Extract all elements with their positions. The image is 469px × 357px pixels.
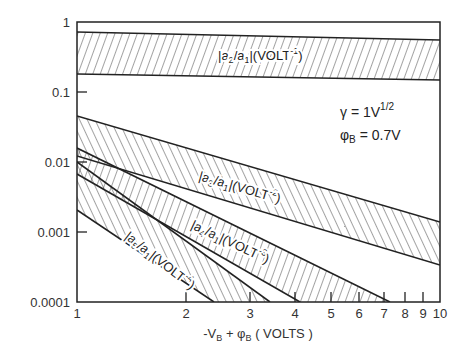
svg-text:4: 4	[291, 306, 298, 321]
svg-text:10: 10	[433, 306, 447, 321]
svg-text:0.01: 0.01	[45, 155, 70, 170]
svg-text:1: 1	[73, 306, 80, 321]
svg-text:9: 9	[419, 306, 426, 321]
svg-text:3: 3	[246, 306, 253, 321]
annotation-phi: φB = 0.7V	[340, 127, 401, 145]
svg-text:5: 5	[327, 306, 334, 321]
svg-text:6: 6	[355, 306, 362, 321]
svg-text:0.0001: 0.0001	[30, 295, 70, 310]
y-tick-labels: 1 0.1 0.01 0.001 0.0001	[30, 15, 70, 310]
svg-text:2: 2	[182, 306, 189, 321]
svg-text:0.001: 0.001	[37, 225, 70, 240]
x-tick-labels: 1 2 3 4 5 6 7 8 9 10	[73, 306, 447, 321]
bands	[77, 32, 440, 302]
svg-text:7: 7	[380, 306, 387, 321]
svg-text:1: 1	[63, 15, 70, 30]
svg-text:8: 8	[401, 306, 408, 321]
svg-text:0.1: 0.1	[52, 85, 70, 100]
x-axis-label: -VB + φB ( VOLTS )	[203, 326, 312, 343]
log-log-chart: 1 0.1 0.01 0.001 0.0001 1 2 3 4 5 6 7 8 …	[0, 0, 469, 357]
annotation-gamma: γ = 1V1/2	[340, 101, 394, 120]
